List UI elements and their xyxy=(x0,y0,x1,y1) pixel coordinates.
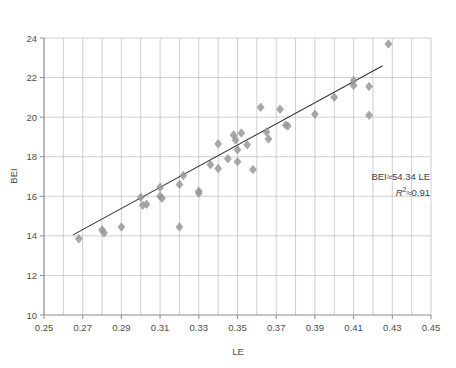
y-tick-label: 14 xyxy=(26,230,37,241)
x-tick-label: 0.37 xyxy=(267,322,286,333)
chart-background xyxy=(0,0,456,368)
x-tick-label: 0.41 xyxy=(344,322,363,333)
x-tick-label: 0.35 xyxy=(228,322,247,333)
chart-canvas: 1012141618202224 0.250.270.290.310.330.3… xyxy=(0,0,456,368)
y-tick-label: 10 xyxy=(26,310,37,321)
x-tick-label: 0.25 xyxy=(35,322,54,333)
x-tick-label: 0.45 xyxy=(422,322,441,333)
y-tick-label: 12 xyxy=(26,270,37,281)
x-tick-label: 0.31 xyxy=(151,322,170,333)
y-tick-label: 18 xyxy=(26,151,37,162)
y-tick-label: 20 xyxy=(26,112,37,123)
y-tick-label: 22 xyxy=(26,72,37,83)
x-tick-label: 0.29 xyxy=(112,322,131,333)
x-tick-label: 0.43 xyxy=(383,322,402,333)
scatter-chart: 1012141618202224 0.250.270.290.310.330.3… xyxy=(0,0,456,368)
regression-equation-label: BEI≈54.34 LE xyxy=(371,171,430,182)
y-tick-label: 16 xyxy=(26,191,37,202)
y-axis-title: BEI xyxy=(8,168,19,183)
x-tick-label: 0.27 xyxy=(73,322,92,333)
x-tick-label: 0.39 xyxy=(306,322,325,333)
x-tick-label: 0.33 xyxy=(190,322,209,333)
r-squared-label: R2≈0.91 xyxy=(396,186,430,198)
y-tick-label: 24 xyxy=(26,33,37,44)
x-axis-title: LE xyxy=(232,346,244,357)
